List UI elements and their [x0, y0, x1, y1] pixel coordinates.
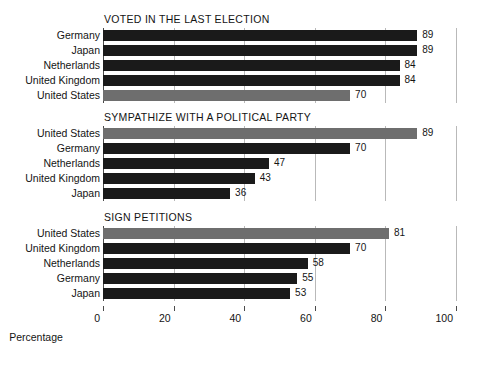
panel-plot-area: 8970474336 [103, 126, 456, 201]
category-label: United Kingdom [10, 242, 100, 254]
bar-row: 47 [103, 156, 456, 171]
bar-row: 43 [103, 171, 456, 186]
bar [103, 173, 255, 184]
bar [103, 228, 389, 239]
bar [103, 128, 417, 139]
category-label: Japan [10, 44, 100, 56]
category-label: Japan [10, 187, 100, 199]
x-axis-title: Percentage [0, 331, 488, 343]
bar-row: 89 [103, 126, 456, 141]
bar [103, 60, 400, 71]
gridline-100 [456, 28, 457, 103]
category-label: United Kingdom [10, 74, 100, 86]
category-label: Netherlands [10, 157, 100, 169]
bar [103, 288, 290, 299]
bar-value-label: 47 [274, 157, 285, 168]
bar-value-label: 89 [422, 29, 433, 40]
bar-value-label: 89 [422, 44, 433, 55]
bar-value-label: 84 [405, 74, 416, 85]
bar-row: 84 [103, 58, 456, 73]
bar [103, 30, 417, 41]
bar-value-label: 70 [355, 89, 366, 100]
panel-plot-area: 8170585553 [103, 226, 456, 301]
x-tick-label-60: 60 [300, 312, 312, 324]
bar [103, 158, 269, 169]
bar-row: 53 [103, 286, 456, 301]
x-axis-title-label: Percentage [9, 331, 63, 343]
x-tick-100 [456, 306, 457, 311]
bar-value-label: 84 [405, 59, 416, 70]
bar-value-label: 55 [302, 272, 313, 283]
x-tick-0 [103, 306, 104, 311]
bar [103, 45, 417, 56]
bar [103, 188, 230, 199]
bar-row: 36 [103, 186, 456, 201]
bar [103, 243, 350, 254]
bar-row: 84 [103, 73, 456, 88]
x-tick-80 [385, 306, 386, 311]
bar-row: 55 [103, 271, 456, 286]
bar [103, 143, 350, 154]
bar-row: 58 [103, 256, 456, 271]
x-tick-label-80: 80 [371, 312, 383, 324]
panel-plot-area: 8989848470 [103, 28, 456, 103]
category-label: Netherlands [10, 59, 100, 71]
bar-value-label: 70 [355, 142, 366, 153]
panel-title: SYMPATHIZE WITH A POLITICAL PARTY [104, 111, 311, 123]
bar-row: 70 [103, 88, 456, 103]
bar-row: 70 [103, 141, 456, 156]
x-tick-label-40: 40 [230, 312, 242, 324]
category-label: Germany [10, 272, 100, 284]
x-tick-20 [174, 306, 175, 311]
bar-value-label: 58 [313, 257, 324, 268]
x-tick-40 [244, 306, 245, 311]
x-axis: 020406080100 [103, 306, 456, 307]
bar [103, 90, 350, 101]
x-tick-label-100: 100 [435, 312, 453, 324]
category-label: United Kingdom [10, 172, 100, 184]
bar-value-label: 43 [260, 172, 271, 183]
category-label: United States [10, 127, 100, 139]
category-label: United States [10, 89, 100, 101]
bar [103, 273, 297, 284]
category-label: Germany [10, 142, 100, 154]
bar-value-label: 70 [355, 242, 366, 253]
bar [103, 75, 400, 86]
bar-value-label: 36 [235, 187, 246, 198]
panel-title: VOTED IN THE LAST ELECTION [104, 13, 270, 25]
bar-value-label: 81 [394, 227, 405, 238]
bar-value-label: 53 [295, 287, 306, 298]
category-label: Japan [10, 287, 100, 299]
x-tick-label-20: 20 [159, 312, 171, 324]
category-label: Netherlands [10, 257, 100, 269]
bar-row: 89 [103, 28, 456, 43]
x-tick-label-0: 0 [94, 312, 100, 324]
gridline-100 [456, 126, 457, 201]
category-label: United States [10, 227, 100, 239]
bar-chart-figure: VOTED IN THE LAST ELECTIONGermanyJapanNe… [0, 0, 488, 367]
x-tick-60 [315, 306, 316, 311]
bar-row: 70 [103, 241, 456, 256]
category-label: Germany [10, 29, 100, 41]
panel-title: SIGN PETITIONS [104, 211, 192, 223]
bar [103, 258, 308, 269]
bar-row: 81 [103, 226, 456, 241]
gridline-100 [456, 226, 457, 301]
bar-value-label: 89 [422, 127, 433, 138]
bar-row: 89 [103, 43, 456, 58]
